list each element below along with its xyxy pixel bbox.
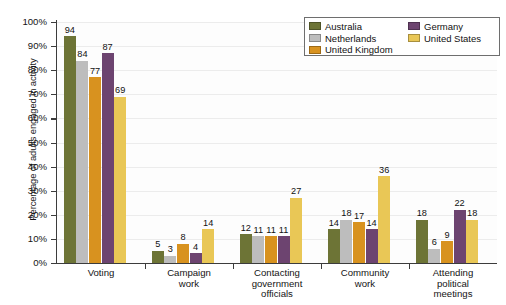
legend-label: United Kingdom	[325, 44, 393, 55]
bar	[252, 236, 264, 263]
x-category-label-line: officials	[222, 289, 332, 300]
bar	[89, 77, 101, 263]
bar-value-label: 84	[69, 49, 95, 59]
legend: AustraliaNetherlandsUnited Kingdom Germa…	[304, 17, 500, 56]
bar-value-label: 27	[283, 186, 309, 196]
legend-swatch-icon	[309, 46, 321, 54]
bar	[290, 198, 302, 263]
bar	[353, 222, 365, 263]
legend-item[interactable]: United States	[408, 32, 481, 43]
bar	[328, 229, 340, 263]
bar-value-label: 14	[195, 218, 221, 228]
bar	[428, 249, 440, 263]
bar	[240, 234, 252, 263]
y-tick-label: 20%	[3, 209, 47, 220]
bar-value-label: 69	[107, 85, 133, 95]
legend-item[interactable]: Germany	[408, 21, 481, 32]
bar	[466, 220, 478, 263]
bar	[76, 61, 88, 263]
y-tick-label: 70%	[3, 88, 47, 99]
bar	[265, 236, 277, 263]
bar-value-label: 18	[459, 208, 485, 218]
y-tick-label: 60%	[3, 112, 47, 123]
y-axis-line	[56, 20, 57, 264]
bar-value-label: 94	[57, 25, 83, 35]
bar-value-label: 36	[371, 165, 397, 175]
bar-value-label: 18	[409, 208, 435, 218]
bar	[164, 256, 176, 263]
x-category-label: Attendingpoliticalmeetings	[398, 268, 506, 300]
legend-swatch-icon	[309, 34, 321, 42]
legend-item[interactable]: United Kingdom	[309, 44, 393, 55]
legend-column-1: AustraliaNetherlandsUnited Kingdom	[309, 21, 393, 57]
y-tick-label: 100%	[3, 16, 47, 27]
legend-label: Australia	[325, 21, 362, 32]
y-tick-label: 80%	[3, 64, 47, 75]
bar-value-label: 22	[447, 198, 473, 208]
bar	[64, 36, 76, 263]
bar	[378, 176, 390, 263]
bar	[190, 253, 202, 263]
bar	[278, 236, 290, 263]
bar-value-label: 8	[170, 232, 196, 242]
legend-label: Germany	[424, 21, 463, 32]
bar-value-label: 87	[95, 42, 121, 52]
y-tick-label: 30%	[3, 185, 47, 196]
legend-label: United States	[424, 33, 481, 44]
legend-swatch-icon	[408, 34, 420, 42]
legend-swatch-icon	[408, 22, 420, 30]
bar	[114, 97, 126, 263]
y-tick-label: 90%	[3, 40, 47, 51]
bar	[366, 229, 378, 263]
legend-swatch-icon	[309, 22, 321, 30]
bar	[202, 229, 214, 263]
bar	[340, 220, 352, 263]
x-category-label-line: meetings	[398, 289, 506, 300]
legend-column-2: GermanyUnited States	[408, 21, 481, 45]
legend-label: Netherlands	[325, 33, 376, 44]
y-tick-label: 50%	[3, 137, 47, 148]
gridline	[57, 70, 497, 71]
x-category-label-line: Attending	[398, 268, 506, 279]
legend-item[interactable]: Netherlands	[309, 32, 393, 43]
y-tick-label: 40%	[3, 161, 47, 172]
legend-item[interactable]: Australia	[309, 21, 393, 32]
bar	[441, 241, 453, 263]
grouped-bar-chart: Percentage of adults engaged in activity…	[0, 0, 506, 305]
y-tick-label: 0%	[3, 257, 47, 268]
y-tick-label: 10%	[3, 233, 47, 244]
